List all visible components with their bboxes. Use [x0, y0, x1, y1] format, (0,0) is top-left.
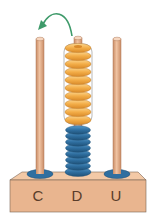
move-arrow	[38, 14, 72, 36]
label-u: U	[106, 187, 126, 204]
rod-c	[36, 37, 44, 175]
orange-beads	[65, 43, 91, 124]
rod-u	[113, 37, 121, 175]
label-c: C	[28, 187, 48, 204]
label-d: D	[67, 187, 87, 204]
blue-beads	[65, 126, 91, 177]
